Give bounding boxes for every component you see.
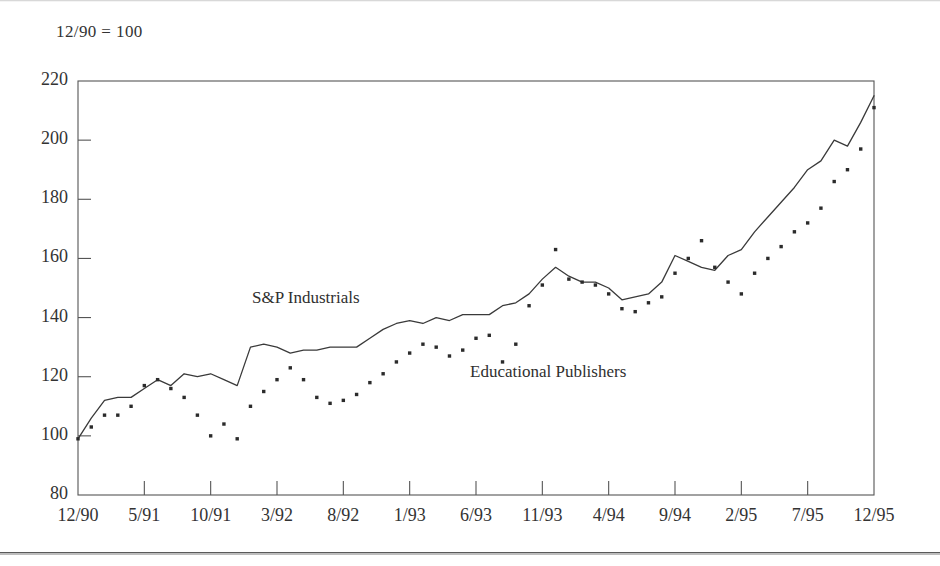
y-tick-140: 140 bbox=[22, 306, 68, 327]
bottom-divider bbox=[0, 552, 940, 555]
y-tick-100: 100 bbox=[22, 424, 68, 445]
series-label-sp-industrials: S&P Industrials bbox=[252, 288, 360, 308]
x-tick-8-92: 8/92 bbox=[327, 505, 359, 526]
chart-figure: 12/90 = 100 S&P Industrials Educational … bbox=[0, 0, 940, 566]
x-tick-5-91: 5/91 bbox=[128, 505, 160, 526]
x-tick-10-91: 10/91 bbox=[190, 505, 231, 526]
series-label-educational-publishers: Educational Publishers bbox=[470, 362, 626, 382]
y-tick-180: 180 bbox=[22, 187, 68, 208]
x-tick-12-90: 12/90 bbox=[57, 505, 98, 526]
x-tick-1-93: 1/93 bbox=[394, 505, 426, 526]
x-tick-7-95: 7/95 bbox=[792, 505, 824, 526]
chart-plot-area bbox=[0, 0, 940, 566]
y-tick-120: 120 bbox=[22, 365, 68, 386]
x-tick-6-93: 6/93 bbox=[460, 505, 492, 526]
y-tick-80: 80 bbox=[22, 483, 68, 504]
x-tick-11-93: 11/93 bbox=[522, 505, 562, 526]
x-tick-9-94: 9/94 bbox=[659, 505, 691, 526]
x-tick-2-95: 2/95 bbox=[725, 505, 757, 526]
x-tick-3-92: 3/92 bbox=[261, 505, 293, 526]
y-tick-160: 160 bbox=[22, 246, 68, 267]
x-tick-12-95: 12/95 bbox=[853, 505, 894, 526]
x-tick-4-94: 4/94 bbox=[593, 505, 625, 526]
y-tick-220: 220 bbox=[22, 69, 68, 90]
y-tick-200: 200 bbox=[22, 128, 68, 149]
